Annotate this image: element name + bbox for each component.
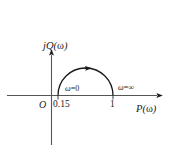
y-axis-label-suffix: ) [64, 40, 68, 51]
annotation-omega-infinity-value: ∞ [128, 83, 134, 92]
y-axis-label-prefix: jQ( [43, 40, 57, 51]
origin-label: O [39, 100, 46, 110]
nyquist-plot-figure: jQ(ω) P(ω) O 0.15 1 ω=0 ω=∞ [0, 0, 173, 152]
y-axis-label-omega: ω [57, 40, 64, 51]
y-axis-label: jQ(ω) [43, 41, 67, 52]
x-tick-label-1: 1 [110, 100, 115, 110]
x-tick-label-0-15: 0.15 [53, 100, 70, 110]
x-axis-label-prefix: P( [136, 103, 146, 114]
x-axis-label-suffix: ) [153, 103, 157, 114]
x-axis-label: P(ω) [136, 104, 156, 115]
plot-canvas [0, 0, 173, 152]
x-axis-label-omega: ω [146, 103, 153, 114]
annotation-omega-zero: ω=0 [65, 85, 79, 93]
annotation-omega-infinity: ω=∞ [118, 84, 134, 92]
annotation-omega-zero-value: 0 [75, 84, 79, 93]
